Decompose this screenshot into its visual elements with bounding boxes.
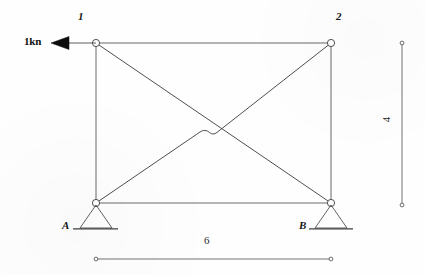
node-label-1: 1 bbox=[78, 11, 84, 22]
support-b-symbol bbox=[309, 205, 353, 229]
node-label-2: 2 bbox=[336, 11, 342, 22]
support-a-symbol bbox=[73, 205, 118, 229]
support-label-a: A bbox=[62, 220, 69, 231]
height-dimension-label: 4 bbox=[381, 117, 392, 123]
load-arrow-1kn bbox=[51, 37, 96, 50]
height-dimension-line bbox=[400, 41, 404, 207]
span-dimension-line bbox=[94, 257, 333, 261]
load-label-1kn: 1kn bbox=[24, 36, 41, 47]
truss-diagram-figure: 1kn 1 2 A B 6 4 bbox=[0, 0, 425, 275]
support-label-b: B bbox=[299, 220, 306, 231]
span-dimension-label: 6 bbox=[204, 235, 210, 246]
left-arrowhead-icon bbox=[51, 37, 69, 50]
joint-node-2 bbox=[327, 39, 334, 46]
truss-diagram-canvas bbox=[0, 0, 425, 275]
